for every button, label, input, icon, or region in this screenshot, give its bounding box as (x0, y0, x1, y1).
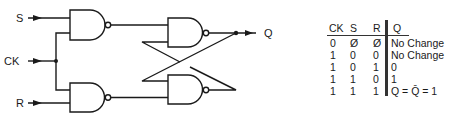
cell-ck: 0 (330, 37, 336, 49)
header-q: Q (393, 22, 401, 34)
cell-r: 0 (373, 49, 379, 61)
inversion-bubble-icon (203, 30, 208, 35)
junction-dot-icon (54, 59, 58, 63)
header-s: S (350, 22, 357, 34)
cell-s: 1 (350, 73, 356, 85)
output-column-divider (385, 20, 388, 96)
cell-ck: 1 (330, 49, 336, 61)
cell-q: 1 (391, 73, 397, 85)
arrow-right-icon (33, 15, 42, 21)
nand-gate-s-icon (70, 10, 105, 40)
cell-r: Ø (373, 37, 381, 49)
cross-coupling-wire-bottom-to-top-b (142, 42, 180, 62)
inversion-bubble-icon (105, 22, 110, 27)
arrow-right-icon (33, 58, 42, 64)
arrow-right-icon (33, 100, 42, 106)
cell-q: No Change (391, 49, 444, 61)
input-label-ck: CK (4, 55, 20, 67)
cell-q: 0 (391, 61, 397, 73)
nand-gate-latch-bottom-icon (168, 75, 203, 104)
inversion-bubble-icon (105, 95, 110, 100)
nand-gate-latch-top-icon (168, 18, 203, 47)
nand-gate-r-icon (70, 83, 105, 112)
ck-distribution-wire (56, 33, 70, 90)
cell-r: 1 (373, 61, 379, 73)
cell-q: Q = Q̄ = 1 (391, 85, 437, 97)
input-label-r: R (16, 97, 24, 109)
cell-s: 0 (350, 49, 356, 61)
cell-q: No Change (391, 37, 444, 49)
input-label-s: S (16, 12, 23, 24)
header-ck: CK (329, 22, 344, 34)
circuit-diagram: S CK R Q (0, 0, 300, 117)
cell-ck: 1 (330, 85, 336, 97)
cell-ck: 1 (330, 73, 336, 85)
inversion-bubble-icon (203, 87, 208, 92)
cell-s: 1 (350, 85, 356, 97)
cell-s: Ø (350, 37, 358, 49)
cell-r: 1 (373, 85, 379, 97)
output-label-q: Q (264, 27, 273, 39)
header-divider (327, 35, 409, 36)
junction-dot-icon (234, 31, 238, 35)
header-r: R (373, 22, 381, 34)
cell-s: 0 (350, 61, 356, 73)
arrow-right-icon (245, 30, 253, 36)
cell-ck: 1 (330, 61, 336, 73)
cross-coupling-wire-top-to-bottom (142, 33, 236, 81)
cell-r: 0 (373, 73, 379, 85)
